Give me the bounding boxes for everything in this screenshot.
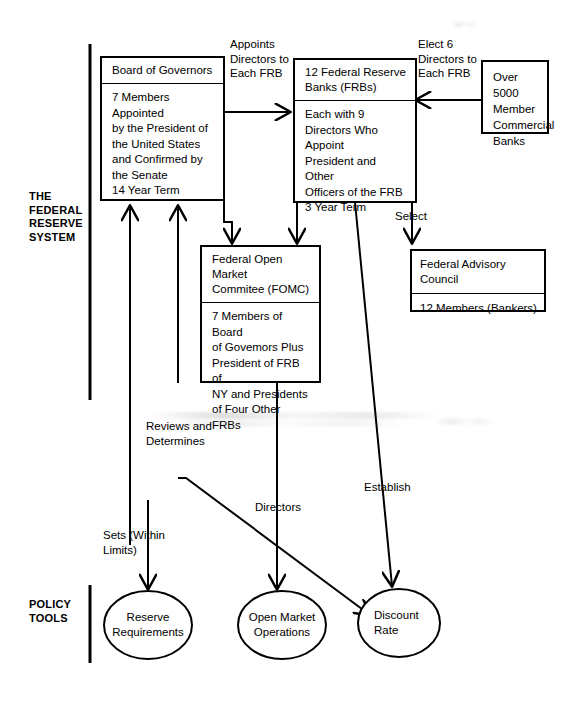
connector-label-establish: Establish	[364, 480, 411, 495]
connector-label-sets-within-limits: Sets (Within Limits)	[103, 528, 165, 557]
box-federal-advisory-council: Federal Advisory Council 12 Members (Ban…	[410, 249, 546, 312]
connector-label-directors: Directors	[255, 500, 301, 515]
box-fomc: Federal Open Market Commitee (FOMC) 7 Me…	[200, 245, 321, 383]
connector-label-reviews-and-determines: Reviews and Determines	[146, 419, 212, 448]
box-federal-reserve-banks-body: Each with 9 Directors Who Appoint Presid…	[295, 101, 415, 222]
box-fomc-body: 7 Members of Board of Govemors Plus Pres…	[202, 303, 319, 439]
box-federal-reserve-banks-title: 12 Federal Reserve Banks (FRBs)	[295, 60, 415, 101]
ellipse-label-reserve-requirements: Reserve Requirements	[88, 610, 208, 640]
box-federal-advisory-council-body: 12 Members (Bankers)	[412, 294, 544, 323]
box-member-commercial-banks-body: Over 5000 Member Commercial Banks	[483, 62, 547, 156]
box-federal-advisory-council-title: Federal Advisory Council	[412, 251, 544, 294]
section-label-policy-tools: POLICY TOOLS	[29, 598, 71, 625]
box-member-commercial-banks: Over 5000 Member Commercial Banks	[481, 60, 549, 134]
box-board-of-governors-title: Board of Governors	[102, 58, 223, 84]
box-federal-reserve-banks: 12 Federal Reserve Banks (FRBs) Each wit…	[293, 58, 417, 203]
connector-label-appoints-directors: Appoints Directors to Each FRB	[230, 37, 289, 81]
box-board-of-governors: Board of Governors 7 Members Appointed b…	[100, 56, 225, 201]
box-board-of-governors-body: 7 Members Appointed by the President of …	[102, 84, 223, 205]
connector-label-select: Select	[395, 209, 427, 224]
section-label-federal-reserve-system: THE FEDERAL RESERVE SYSTEM	[29, 190, 83, 244]
federal-reserve-system-diagram: THE FEDERAL RESERVE SYSTEM POLICY TOOLS …	[0, 0, 583, 702]
connector-label-elect-six-directors: Elect 6 Directors to Each FRB	[418, 37, 477, 81]
ellipse-label-discount-rate: Discount Rate	[374, 608, 450, 638]
ellipse-label-open-market-operations: Open Market Operations	[222, 610, 342, 640]
box-fomc-title: Federal Open Market Commitee (FOMC)	[202, 247, 319, 303]
